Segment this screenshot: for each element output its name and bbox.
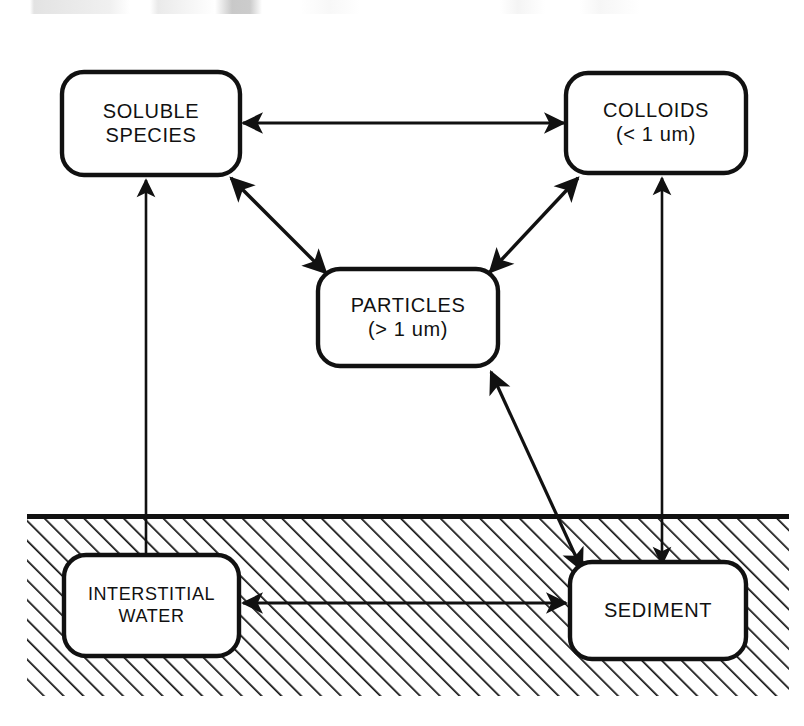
node-interstitial-water[interactable] xyxy=(64,555,239,656)
node-particles[interactable] xyxy=(318,269,498,366)
arrow-colloids-particles xyxy=(490,178,578,272)
diagram-canvas: SOLUBLE SPECIES COLLOIDS (< 1 um) PARTIC… xyxy=(0,0,804,726)
node-soluble-species[interactable] xyxy=(62,72,240,175)
diagram-vector-layer xyxy=(0,0,804,726)
arrow-soluble-species-particles xyxy=(231,178,326,273)
node-colloids[interactable] xyxy=(566,73,746,173)
node-sediment[interactable] xyxy=(570,562,746,659)
